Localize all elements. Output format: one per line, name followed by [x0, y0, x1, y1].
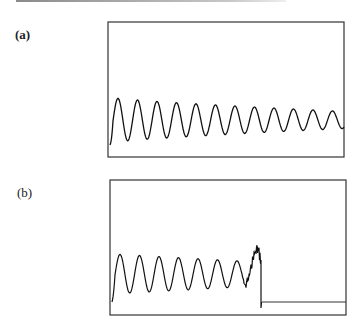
plot-b-frame — [110, 180, 346, 315]
plot-b-signal — [112, 245, 262, 308]
plot-b — [110, 180, 346, 315]
plot-a-signal — [110, 98, 344, 145]
plot-a — [108, 22, 344, 157]
plot-a-frame — [108, 22, 344, 157]
figure-plots — [0, 0, 364, 331]
